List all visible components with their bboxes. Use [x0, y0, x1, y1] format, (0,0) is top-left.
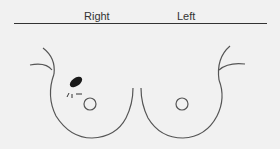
right-nipple	[84, 98, 96, 110]
left-breast-axilla-line	[218, 46, 230, 80]
right-breast-axilla-line	[43, 48, 54, 74]
right-breast-outline	[50, 74, 133, 138]
left-nipple	[176, 98, 188, 110]
right-breast-fold-line	[30, 64, 52, 70]
lesion-spiculations	[67, 93, 82, 98]
breast-diagram	[0, 0, 280, 149]
left-breast-outline	[141, 80, 222, 138]
lesion-mass	[68, 75, 84, 90]
left-breast-fold-line	[219, 64, 245, 70]
